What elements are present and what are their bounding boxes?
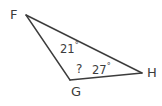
angle-measure-G-unknown: ? — [76, 63, 82, 75]
vertex-label-G: G — [71, 85, 81, 98]
angle-measure-H-value: 27 — [92, 63, 107, 77]
angle-measure-F: 21° — [60, 42, 79, 55]
vertex-label-H: H — [147, 66, 157, 79]
angle-measure-F-value: 21 — [60, 42, 75, 56]
edge-FH — [26, 15, 142, 73]
vertex-label-F: F — [10, 8, 17, 21]
degree-symbol-icon-F: ° — [75, 41, 79, 50]
degree-symbol-icon-H: ° — [107, 62, 111, 71]
triangle-figure: F G H 21° 27° ? — [0, 0, 162, 106]
angle-measure-H: 27° — [92, 63, 111, 76]
